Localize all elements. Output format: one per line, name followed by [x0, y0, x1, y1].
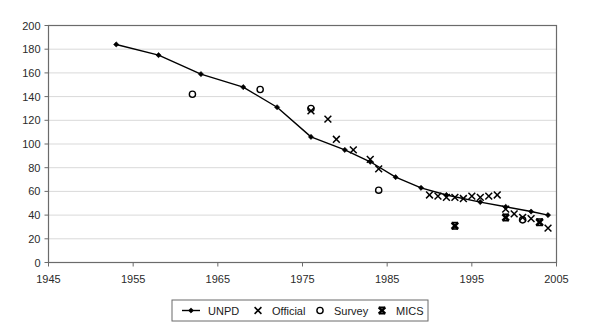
x-tick-label: 1985: [375, 273, 399, 285]
mortality-chart: 020406080100120140160180200 194519551965…: [0, 0, 594, 329]
x-tick-label: 2005: [544, 273, 568, 285]
x-tick-label: 1975: [290, 273, 314, 285]
legend-label: UNPD: [208, 305, 239, 317]
y-tick-label: 0: [34, 257, 40, 269]
y-tick-label: 40: [28, 209, 40, 221]
legend-label: MICS: [396, 305, 424, 317]
legend-label: Survey: [334, 305, 369, 317]
y-tick-label: 20: [28, 233, 40, 245]
legend-label: Official: [272, 305, 305, 317]
y-tick-label: 100: [22, 138, 40, 150]
y-tick-label: 60: [28, 185, 40, 197]
y-tick-label: 120: [22, 114, 40, 126]
y-tick-label: 180: [22, 43, 40, 55]
chart-legend: UNPDOfficialSurveyMICS: [172, 300, 428, 321]
x-tick-label: 1995: [460, 273, 484, 285]
y-tick-label: 80: [28, 162, 40, 174]
x-tick-label: 1965: [206, 273, 230, 285]
y-tick-label: 200: [22, 20, 40, 32]
x-tick-label: 1945: [36, 273, 60, 285]
y-tick-label: 140: [22, 91, 40, 103]
x-tick-label: 1955: [121, 273, 145, 285]
chart-container: 020406080100120140160180200 194519551965…: [0, 0, 594, 329]
y-tick-label: 160: [22, 67, 40, 79]
